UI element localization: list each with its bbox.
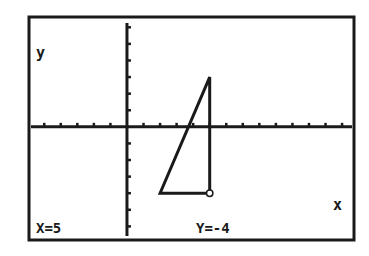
x-axis-label: x [333,196,342,214]
trace-cursor-icon [207,190,213,196]
y-axis-label: y [36,44,45,62]
graph-canvas: y x X=5 Y=-4 [0,0,369,256]
trace-readout-y: Y=-4 [196,220,230,236]
screen-frame [29,17,354,240]
calculator-graph-screen: y x X=5 Y=-4 [0,0,369,256]
trace-readout-x: X=5 [36,220,61,236]
